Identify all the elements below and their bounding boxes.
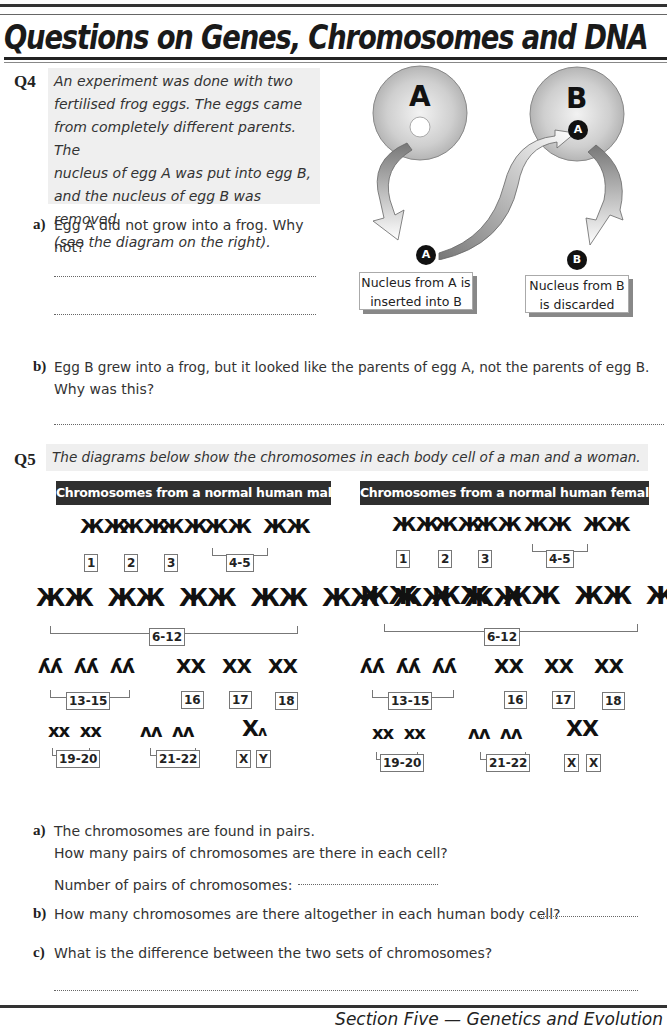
section-footer: Section Five — Genetics and Evolution: [335, 1009, 663, 1029]
sex-chromosomes-xy: Xʌ: [242, 716, 266, 741]
q4a-answer-line-2[interactable]: [54, 314, 316, 315]
q5a-answer-prompt: Number of pairs of chromosomes:: [54, 874, 292, 896]
label-13-15: 13-15: [66, 692, 110, 710]
male-karyotype: ЖЖ ЖЖ ЖЖ ЖЖ ЖЖ 1 2 3 4-5 ЖЖ ЖЖ ЖЖ ЖЖ ЖЖ …: [36, 508, 346, 748]
chromosome-pairs-21-22: ʌʌ ʌʌ: [468, 722, 521, 743]
nucleus-a-in-b: A: [568, 120, 588, 140]
caption-nucleus-a: Nucleus from A is inserted into B: [359, 272, 473, 310]
chromosome-pair-18: XX: [594, 654, 623, 678]
q4b-line: Why was this?: [54, 378, 664, 400]
q4a-line: Egg A did not grow into a frog. Why: [54, 214, 334, 236]
label-17: 17: [552, 691, 575, 709]
male-chromosomes-header: Chromosomes from a normal human male: [56, 481, 331, 505]
label-21-22: 21-22: [156, 750, 200, 768]
chromosome-pair-1: ЖЖ: [392, 512, 439, 536]
nucleus-transfer-diagram: [340, 60, 667, 260]
label-3: 3: [164, 554, 178, 572]
q5-part-b-question: How many chromosomes are there altogethe…: [54, 903, 561, 925]
female-karyotype: ЖЖ ЖЖ ЖЖ ЖЖ ЖЖ 1 2 3 4-5 ЖЖ ЖЖ ЖЖ ЖЖ ЖЖ …: [364, 508, 667, 748]
question-number-q4: Q4: [14, 72, 36, 92]
chromosome-pairs-13-15: ʎʎ ʎʎ ʎʎ: [360, 654, 456, 678]
q4-part-a-question: Egg A did not grow into a frog. Why not?: [54, 214, 334, 258]
q4a-line: not?: [54, 236, 334, 258]
caption-b-line: is discarded: [526, 295, 628, 314]
bottom-rule: [0, 1005, 667, 1008]
q5a-answer-field[interactable]: [298, 884, 438, 885]
top-rule: [0, 4, 667, 7]
label-21-22: 21-22: [486, 754, 530, 772]
chromosome-pairs-13-15: ʎʎ ʎʎ ʎʎ: [38, 654, 134, 678]
sex-chromosomes-xx: XX: [566, 716, 598, 741]
chromosome-pairs-4-5: ЖЖ ЖЖ: [524, 512, 630, 536]
label-6-12: 6-12: [149, 628, 185, 646]
q4a-answer-line-1[interactable]: [54, 276, 316, 277]
q4-intro-line: from completely different parents. The: [54, 116, 314, 162]
nucleus-a-extracted: A: [416, 245, 436, 265]
chromosome-pairs-19-20: xx xx: [48, 720, 101, 741]
chromosome-pairs-6-12: ЖЖ ЖЖ ЖЖ ЖЖ ЖЖ ЖЖ ЖЖ: [360, 582, 667, 610]
label-17: 17: [229, 691, 252, 709]
q4b-answer-line[interactable]: [54, 424, 664, 425]
label-19-20: 19-20: [380, 754, 424, 772]
q4-part-b-question: Egg B grew into a frog, but it looked li…: [54, 356, 664, 400]
label-18: 18: [275, 692, 298, 710]
q4-part-a-label: a): [33, 216, 46, 233]
q4-part-b-label: b): [33, 358, 46, 375]
chromosome-pair-3: ЖЖ: [160, 514, 207, 538]
chromosome-pair-16: XX: [176, 654, 205, 678]
question-number-q5: Q5: [14, 450, 36, 470]
q5-part-c-label: c): [33, 944, 45, 961]
top-rule-thin: [0, 14, 667, 15]
q5a-line: How many pairs of chromosomes are there …: [54, 842, 654, 864]
label-1: 1: [84, 554, 98, 572]
q5b-answer-field[interactable]: [538, 916, 638, 917]
q5c-answer-line[interactable]: [54, 990, 638, 991]
q4-intro: An experiment was done with two fertilis…: [48, 68, 320, 204]
female-chromosomes-header: Chromosomes from a normal human female: [360, 481, 649, 505]
label-6-12: 6-12: [484, 628, 520, 646]
q4-intro-line: An experiment was done with two: [54, 70, 314, 93]
label-2: 2: [438, 550, 452, 568]
chromosome-pair-16: XX: [494, 654, 523, 678]
label-1: 1: [396, 550, 410, 568]
q5-intro: The diagrams below show the chromosomes …: [46, 444, 648, 471]
label-18: 18: [602, 692, 625, 710]
chromosome-pair-3: ЖЖ: [474, 512, 521, 536]
q4b-line: Egg B grew into a frog, but it looked li…: [54, 356, 664, 378]
label-16: 16: [181, 691, 204, 709]
nucleus-b-discarded: B: [567, 250, 587, 270]
q5-part-a-question: The chromosomes are found in pairs. How …: [54, 820, 654, 864]
label-19-20: 19-20: [56, 750, 100, 768]
q5-part-b-label: b): [33, 905, 46, 922]
chromosome-pair-17: XX: [544, 654, 573, 678]
q5-part-a-label: a): [33, 822, 46, 839]
chromosome-pairs-19-20: xx xx: [372, 722, 425, 743]
label-16: 16: [504, 691, 527, 709]
caption-nucleus-b: Nucleus from B is discarded: [525, 275, 629, 313]
chromosome-pair-17: XX: [222, 654, 251, 678]
chromosome-pairs-21-22: ʌʌ ʌʌ: [140, 720, 193, 741]
label-3: 3: [478, 550, 492, 568]
label-4-5: 4-5: [226, 554, 254, 572]
page-title: Questions on Genes, Chromosomes and DNA: [4, 18, 554, 57]
q4-intro-line: fertilised frog eggs. The eggs came: [54, 93, 314, 116]
label-2: 2: [124, 554, 138, 572]
q4-intro-line: nucleus of egg A was put into egg B,: [54, 162, 314, 185]
chromosome-pair-18: XX: [268, 654, 297, 678]
q5a-line: The chromosomes are found in pairs.: [54, 820, 654, 842]
caption-a-line: Nucleus from A is: [360, 273, 472, 292]
label-4-5: 4-5: [546, 550, 574, 568]
egg-a-label: A: [409, 80, 431, 113]
q5-part-c-question: What is the difference between the two s…: [54, 942, 492, 964]
egg-b-label: B: [566, 82, 587, 115]
caption-a-line: inserted into B: [360, 292, 472, 311]
label-sex-y: Y: [256, 750, 271, 768]
label-13-15: 13-15: [388, 692, 432, 710]
label-sex-x1: X: [564, 754, 579, 772]
chromosome-pairs-4-5: ЖЖ ЖЖ: [204, 514, 310, 538]
caption-b-line: Nucleus from B: [526, 276, 628, 295]
label-sex-x2: X: [586, 754, 601, 772]
label-sex-x: X: [236, 750, 251, 768]
